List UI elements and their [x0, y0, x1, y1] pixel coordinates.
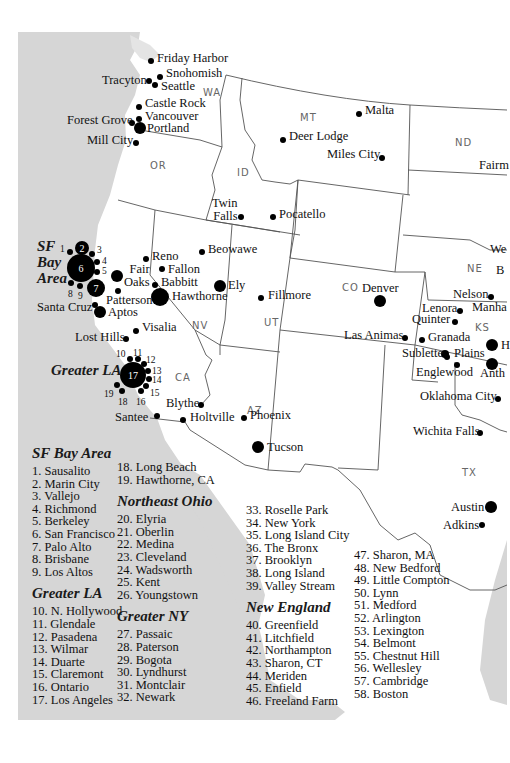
cluster-dot-number: 5 [102, 266, 107, 276]
city-dot-icon [134, 122, 146, 134]
city-label: FairOaks [124, 263, 150, 289]
puget-sound [130, 35, 160, 62]
city-label: Wichita Falls [413, 425, 480, 438]
city-label: Ely [228, 279, 245, 292]
cluster-dot-number: 3 [97, 245, 102, 255]
city-dot-icon [111, 270, 123, 282]
state-label: MT [300, 112, 317, 123]
legend-item: 46. Freeland Farm [246, 695, 349, 708]
city-label: Las Animas [344, 329, 403, 342]
city-dot-icon [199, 249, 205, 255]
city-label: Anth [480, 367, 505, 380]
legend-item: 6. San Francisco [32, 528, 122, 541]
legend-list: 18. Long Beach19. Hawthorne, CA [117, 461, 215, 486]
city-dot-icon [136, 104, 142, 110]
city-dot-icon [356, 111, 362, 117]
city-label: Beowawe [208, 243, 257, 256]
cluster-dot-icon [94, 269, 100, 275]
city-label: Deer Lodge [289, 130, 348, 143]
legend-list: 27. Passaic28. Paterson29. Bogota30. Lyn… [117, 628, 215, 704]
city-label: Santee [115, 411, 148, 424]
city-dot-icon [485, 501, 497, 513]
city-dot-icon [270, 214, 276, 220]
city-label: Forest Grove [67, 114, 133, 127]
legend-item: 13. Wilmar [32, 643, 122, 656]
cluster-dot-number: 9 [78, 291, 83, 301]
city-label: We [490, 243, 506, 256]
legend-item: 3. Vallejo [32, 490, 122, 503]
legend-item: 35. Long Island City [246, 529, 349, 542]
city-label: Holtville [190, 411, 234, 424]
city-label: Denver [362, 282, 399, 295]
city-label: Lost Hills [75, 331, 125, 344]
legend-item: 11. Glendale [32, 618, 122, 631]
city-dot-icon [151, 288, 169, 306]
city-label: Aptos [108, 306, 138, 319]
legend-column: 33. Roselle Park34. New York35. Long Isl… [246, 504, 349, 714]
state-label: CO [342, 282, 359, 293]
city-label: Quinter [412, 313, 450, 326]
legend-item: 38. Long Island [246, 567, 349, 580]
legend-item: 47. Sharon, MA [354, 549, 449, 562]
legend-list: 10. N. Hollywood11. Glendale12. Pasadena… [32, 605, 122, 706]
city-label: Sublette [402, 347, 443, 360]
state-label: NV [192, 320, 208, 331]
city-dot-icon [94, 306, 106, 318]
state-label: KS [475, 322, 490, 333]
cluster-dot-number: 14 [152, 375, 162, 385]
cluster-region-label: Greater LA [51, 362, 121, 378]
city-dot-icon [133, 140, 139, 146]
city-dot-icon [154, 413, 160, 419]
legend-item: 57. Cambridge [354, 675, 449, 688]
cluster-dot-number: 4 [102, 256, 107, 266]
city-label: Granada [428, 331, 470, 344]
cluster-dot-icon [143, 383, 149, 389]
cluster-center-number: 17 [128, 370, 138, 381]
city-label: Fillmore [268, 289, 311, 302]
legend-list: 47. Sharon, MA48. New Bedford49. Little … [354, 549, 449, 700]
city-label: Visalia [142, 321, 177, 334]
legend-item: 43. Sharon, CT [246, 657, 349, 670]
city-label: Blythe [166, 397, 199, 410]
city-dot-icon [374, 295, 386, 307]
city-dot-icon [452, 319, 458, 325]
cluster-dot-number: 15 [150, 388, 160, 398]
city-label: Tracyton [102, 74, 147, 87]
city-dot-icon [457, 308, 463, 314]
legend-item: 1. Sausalito [32, 465, 122, 478]
city-label: Adkins [443, 519, 479, 532]
state-label: TX [462, 467, 477, 478]
city-label: Tucson [267, 441, 303, 454]
legend-item: 26. Youngstown [117, 589, 215, 602]
city-label: Friday Harbor [157, 52, 228, 65]
city-label: Plains [454, 347, 485, 360]
city-dot-icon [258, 295, 264, 301]
cluster-dot-icon [77, 283, 83, 289]
legend-group-title: New England [246, 599, 349, 616]
legend-item: 52. Arlington [354, 612, 449, 625]
city-dot-icon [238, 214, 244, 220]
legend-item: 9. Los Altos [32, 566, 122, 579]
cluster-dot-number: 2 [80, 243, 85, 254]
legend-item: 30. Lyndhurst [117, 666, 215, 679]
legend-item: 58. Boston [354, 688, 449, 701]
city-dot-icon [133, 328, 139, 334]
cluster-dot-number: 12 [146, 355, 156, 365]
ocean-gulf-of-mexico [480, 540, 507, 705]
cluster-dot-icon [119, 388, 125, 394]
cluster-dot-number: 18 [118, 397, 128, 407]
city-label: Mill City [87, 134, 133, 147]
city-dot-icon [180, 417, 186, 423]
city-dot-icon [486, 339, 498, 351]
legend-item: 39. Valley Stream [246, 580, 349, 593]
city-label: Austin [451, 501, 484, 514]
legend-group-title: SF Bay Area [32, 445, 122, 462]
city-label: Malta [365, 104, 394, 117]
city-label: Manha [472, 301, 507, 314]
cluster-dot-icon [145, 368, 151, 374]
city-label: Miles City [327, 148, 380, 161]
legend-item: 23. Cleveland [117, 551, 215, 564]
city-label: TwinFalls [212, 197, 238, 223]
legend-group-title: Northeast Ohio [117, 493, 215, 510]
city-dot-icon [252, 441, 264, 453]
